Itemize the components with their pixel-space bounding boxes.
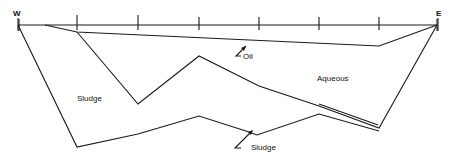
surface-ticks xyxy=(19,15,437,31)
oil-boundary xyxy=(45,25,437,46)
sludge-bottom-label: Sludge xyxy=(251,144,276,152)
aqueous-label: Aqueous xyxy=(317,75,349,83)
cross-section-diagram xyxy=(0,0,453,162)
oil-label: Oil xyxy=(243,53,253,61)
sludge-left-label: Sludge xyxy=(77,95,102,103)
east-label: E xyxy=(436,10,441,18)
west-label: W xyxy=(13,10,21,18)
